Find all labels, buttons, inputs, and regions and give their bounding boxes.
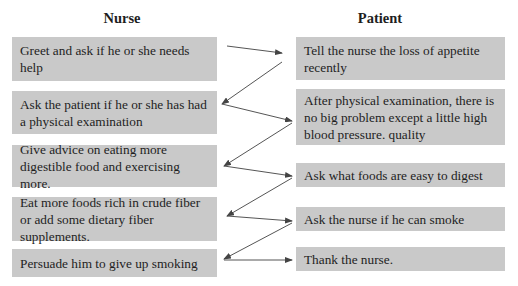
arrow-patient3-to-nurse4 (227, 178, 292, 216)
arrow-nurse4-to-patient4 (227, 216, 292, 221)
arrow-nurse3-to-patient3 (224, 166, 292, 176)
arrow-patient4-to-nurse5 (224, 223, 292, 259)
arrow-nurse2-to-patient2 (222, 104, 292, 121)
arrow-nurse1-to-patient1 (227, 46, 282, 53)
arrow-patient1-to-nurse2 (222, 62, 282, 104)
arrow-patient2-to-nurse3 (224, 123, 292, 166)
flow-arrows (0, 0, 518, 286)
